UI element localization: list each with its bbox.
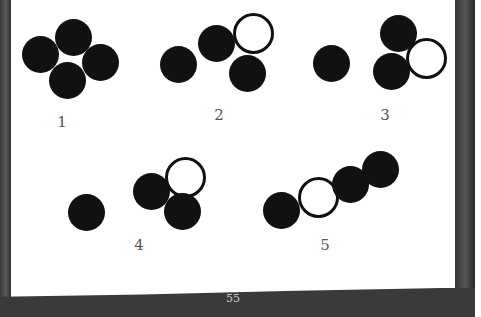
filled-circle xyxy=(198,25,235,62)
open-circle xyxy=(406,38,447,79)
open-circle xyxy=(165,157,206,198)
filled-circle xyxy=(68,194,105,231)
figure-label: 5 xyxy=(320,236,330,254)
filled-circle xyxy=(362,151,399,188)
filled-circle xyxy=(229,55,266,92)
filled-circle xyxy=(313,45,350,82)
filled-circle xyxy=(373,53,410,90)
frame-border-right xyxy=(455,0,475,300)
filled-circle xyxy=(82,44,119,81)
open-circle xyxy=(233,13,274,54)
frame-border-left xyxy=(0,0,11,317)
figure-label: 4 xyxy=(134,236,144,254)
page-number: 55 xyxy=(226,292,240,305)
figure-label: 1 xyxy=(57,113,67,131)
filled-circle xyxy=(160,46,197,83)
filled-circle xyxy=(164,193,201,230)
filled-circle xyxy=(263,192,300,229)
figure-label: 3 xyxy=(380,106,390,124)
figure-label: 2 xyxy=(214,106,224,124)
filled-circle xyxy=(49,62,86,99)
